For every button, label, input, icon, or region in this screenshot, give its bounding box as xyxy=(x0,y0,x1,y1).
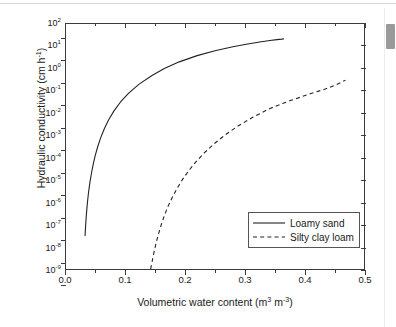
x-axis-tick-label: 0.2 xyxy=(165,274,205,285)
legend-item-loamy-sand: Loamy sand xyxy=(252,216,355,230)
legend-label-silty-clay-loam: Silty clay loam xyxy=(290,232,354,243)
legend-swatch-dashed xyxy=(252,232,286,242)
chart-legend: Loamy sand Silty clay loam xyxy=(248,212,360,248)
y-axis-tick-label: 10-4 xyxy=(31,153,61,162)
y-axis-tick-label: 10-3 xyxy=(31,131,61,140)
y-axis-tick-label: 10-2 xyxy=(31,108,61,117)
x-axis-minor-tick-mark xyxy=(275,270,276,273)
legend-swatch-solid xyxy=(252,218,286,228)
y-axis-tick-label: 10-7 xyxy=(31,221,61,230)
x-axis-tick-label: 0.4 xyxy=(285,274,325,285)
x-axis-minor-tick-mark xyxy=(335,270,336,273)
y-axis-tick-label: 10-5 xyxy=(31,176,61,185)
screenshot-root: Hydraulic conductivity (cm h-1) 10210110… xyxy=(0,0,396,327)
legend-item-silty-clay-loam: Silty clay loam xyxy=(252,230,355,244)
series-line-loamy-sand xyxy=(85,39,283,236)
x-axis-minor-tick-mark xyxy=(215,270,216,273)
vertical-scrollbar[interactable] xyxy=(384,8,396,327)
x-axis-tick-mark xyxy=(185,270,186,275)
x-axis-tick-mark xyxy=(245,270,246,275)
chart-figure: Hydraulic conductivity (cm h-1) 10210110… xyxy=(0,8,382,323)
x-axis-top-tick-mark xyxy=(365,23,366,28)
y-axis-tick-labels: 10210110010-110-210-310-410-510-610-710-… xyxy=(25,23,61,270)
x-axis-title: Volumetric water content (m3 m-3) xyxy=(65,296,365,308)
y-axis-tick-label: 10-1 xyxy=(31,86,61,95)
x-axis-tick-labels: 0.00.10.20.30.40.5 xyxy=(65,270,365,290)
x-axis-minor-tick-mark xyxy=(155,270,156,273)
y-axis-tick-label: 100 xyxy=(31,63,61,72)
x-axis-title-tail: ) xyxy=(289,296,293,308)
y-axis-tick-label: 10-8 xyxy=(31,243,61,252)
x-axis-title-mid: m xyxy=(271,296,283,308)
x-axis-tick-label: 0.1 xyxy=(105,274,145,285)
x-axis-tick-mark xyxy=(305,270,306,275)
legend-label-loamy-sand: Loamy sand xyxy=(290,218,344,229)
y-axis-tick-label: 10-6 xyxy=(31,198,61,207)
x-axis-tick-label: 0.5 xyxy=(345,274,385,285)
x-axis-tick-label: 0.0 xyxy=(45,274,85,285)
x-axis-tick-mark xyxy=(365,270,366,275)
x-axis-minor-tick-mark xyxy=(95,270,96,273)
scrollbar-thumb[interactable] xyxy=(386,24,395,49)
y-axis-tick-label: 102 xyxy=(31,19,61,28)
x-axis-tick-mark xyxy=(65,270,66,275)
y-axis-tick-label: 101 xyxy=(31,41,61,50)
top-divider xyxy=(0,3,396,4)
x-axis-tick-label: 0.3 xyxy=(225,274,265,285)
x-axis-title-text: Volumetric water content (m xyxy=(137,296,267,308)
x-axis-tick-mark xyxy=(125,270,126,275)
